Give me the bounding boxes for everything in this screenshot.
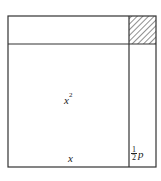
completing-square-diagram: x2 x 1 2 p [0,0,161,181]
fraction-denominator: 2 [132,154,136,161]
half-fraction: 1 2 [131,146,137,161]
hatched-corner-square [129,16,156,44]
x-squared-label: x2 [64,94,72,106]
side-x-label: x [68,152,73,164]
x-squared-exponent: 2 [69,91,73,99]
p-variable: p [138,148,144,160]
fraction-numerator: 1 [132,146,136,153]
half-p-label: 1 2 p [131,146,144,161]
